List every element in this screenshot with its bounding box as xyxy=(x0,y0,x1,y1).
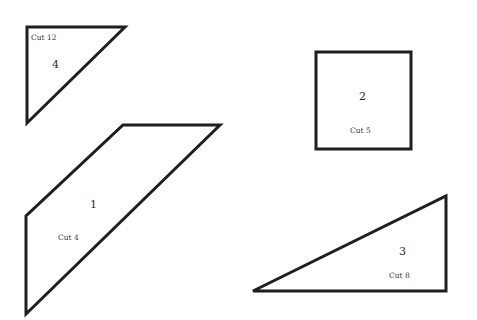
piece-2-number: 2 xyxy=(359,90,366,103)
piece-4-number: 4 xyxy=(52,58,59,71)
piece-3-outline xyxy=(253,196,446,291)
piece-1-cut-label: Cut 4 xyxy=(58,233,79,242)
piece-3-number: 3 xyxy=(399,245,406,258)
piece-1-outline xyxy=(26,125,220,314)
pattern-diagram: Cut 12 4 1 Cut 4 2 Cut 5 3 Cut 8 xyxy=(0,0,477,320)
piece-1-number: 1 xyxy=(90,198,97,211)
piece-4: Cut 12 4 xyxy=(27,27,125,123)
piece-2: 2 Cut 5 xyxy=(316,52,411,149)
piece-3-cut-label: Cut 8 xyxy=(389,271,410,280)
piece-2-cut-label: Cut 5 xyxy=(350,126,371,135)
piece-4-cut-label: Cut 12 xyxy=(31,33,57,42)
piece-3: 3 Cut 8 xyxy=(253,196,446,291)
piece-1: 1 Cut 4 xyxy=(26,125,220,314)
